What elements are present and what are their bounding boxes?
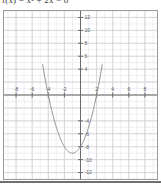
- y-axis-tick-label: -12: [85, 169, 92, 175]
- y-axis-tick-label: -8: [85, 144, 90, 150]
- function-expression-label: f(x) = x² + 2x − 8: [2, 0, 69, 5]
- x-axis-tick-label: -2: [62, 86, 67, 92]
- y-axis-tick-label: 10: [85, 27, 91, 33]
- y-axis-tick-label: -4: [85, 118, 90, 124]
- graph-screenshot: f(x) = x² + 2x − 8 -8-6-4-224681210864-4…: [0, 0, 161, 184]
- x-axis-tick-label: -6: [30, 86, 35, 92]
- clipped-title-strip: f(x) = x² + 2x − 8: [0, 0, 161, 9]
- plot-area: -8-6-4-224681210864-4-6-8-10-12: [4, 11, 157, 179]
- x-axis-tick-label: 4: [111, 86, 114, 92]
- y-axis-tick-label: -10: [85, 157, 92, 163]
- x-axis-tick-label: 8: [144, 86, 147, 92]
- plot-frame: -8-6-4-224681210864-4-6-8-10-12: [3, 10, 158, 180]
- y-axis-tick-label: 8: [85, 40, 88, 46]
- y-axis-tick-label: 12: [85, 14, 91, 20]
- parabola-chart: -8-6-4-224681210864-4-6-8-10-12: [4, 11, 157, 179]
- x-axis-tick-label: -8: [14, 86, 19, 92]
- y-axis-tick-label: 6: [85, 53, 88, 59]
- bottom-divider: [0, 181, 161, 183]
- x-axis-tick-label: 6: [127, 86, 130, 92]
- y-axis-tick-label: 4: [85, 66, 88, 72]
